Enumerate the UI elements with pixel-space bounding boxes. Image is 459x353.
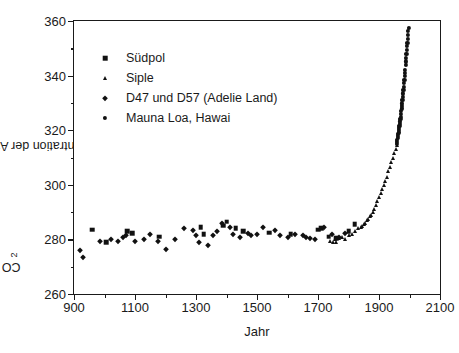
data-point-triangle — [382, 183, 386, 187]
data-point-diamond — [163, 246, 168, 251]
y-tick-label: 360 — [44, 15, 66, 28]
legend-marker-triangle-icon — [96, 69, 114, 87]
data-point-diamond — [190, 227, 195, 232]
y-tick-label: 340 — [44, 69, 66, 82]
data-point-diamond — [108, 237, 113, 242]
x-tick-label: 1300 — [182, 301, 211, 314]
data-point-diamond — [277, 233, 282, 238]
data-point-diamond — [97, 238, 102, 243]
data-point-circle — [404, 56, 408, 60]
data-point-diamond — [215, 229, 220, 234]
data-point-square — [90, 228, 95, 233]
y-axis-title: CO2 - Konzentration der Atmosphäre (ppm) — [2, 20, 20, 295]
data-point-diamond — [197, 240, 202, 245]
data-point-circle — [406, 37, 410, 41]
data-point-triangle — [375, 199, 379, 203]
data-point-triangle — [394, 147, 398, 151]
data-point-square — [198, 225, 203, 230]
data-point-triangle — [377, 195, 381, 199]
y-tick-label: 300 — [44, 178, 66, 191]
legend-swatch-glyph — [103, 116, 107, 120]
y-tick-label: 260 — [44, 288, 66, 301]
data-point-diamond — [312, 237, 317, 242]
data-point-diamond — [148, 231, 153, 236]
data-point-diamond — [78, 248, 83, 253]
data-point-diamond — [116, 238, 121, 243]
y-tick-label: 320 — [44, 124, 66, 137]
data-point-diamond — [261, 225, 266, 230]
y-tick-label: 280 — [44, 233, 66, 246]
data-point-square — [201, 232, 206, 237]
data-point-diamond — [285, 234, 290, 239]
data-point-diamond — [230, 231, 235, 236]
data-point-diamond — [273, 227, 278, 232]
data-point-circle — [404, 59, 408, 63]
x-tick-minor — [288, 294, 289, 298]
data-point-diamond — [255, 231, 260, 236]
legend-item: D47 und D57 (Adelie Land) — [96, 88, 278, 108]
data-point-triangle — [380, 187, 384, 191]
x-axis-title: Jahr — [73, 324, 441, 339]
data-point-circle — [404, 52, 408, 56]
data-point-triangle — [343, 237, 347, 241]
data-point-triangle — [379, 191, 383, 195]
legend-marker-square-icon — [96, 49, 114, 67]
data-point-diamond — [210, 233, 215, 238]
data-point-triangle — [385, 175, 389, 179]
data-point-triangle — [389, 160, 393, 164]
data-point-circle — [402, 78, 406, 82]
legend-swatch-glyph — [103, 76, 107, 80]
chart-legend: SüdpolSipleD47 und D57 (Adelie Land)Maun… — [96, 48, 278, 128]
x-tick-label: 2100 — [426, 301, 455, 314]
x-tick-label: 1500 — [243, 301, 272, 314]
data-point-diamond — [172, 237, 177, 242]
legend-marker-circle-icon — [96, 109, 114, 127]
x-tick-minor — [227, 294, 228, 298]
legend-swatch-glyph — [103, 56, 108, 61]
x-tick-label: 1700 — [304, 301, 333, 314]
x-tick-label: 1900 — [365, 301, 394, 314]
data-point-square — [104, 240, 109, 245]
data-point-diamond — [155, 238, 160, 243]
data-point-circle — [401, 91, 405, 95]
legend-swatch-glyph — [103, 96, 108, 101]
x-tick-minor — [349, 294, 350, 298]
data-point-diamond — [194, 233, 199, 238]
data-point-diamond — [181, 226, 186, 231]
data-point-square — [267, 230, 272, 235]
data-point-circle — [405, 48, 409, 52]
data-point-square — [130, 231, 135, 236]
legend-item: Südpol — [96, 48, 278, 68]
legend-label: D47 und D57 (Adelie Land) — [126, 92, 278, 105]
data-point-triangle — [386, 169, 390, 173]
data-point-triangle — [374, 203, 378, 207]
legend-item: Mauna Loa, Hawai — [96, 108, 278, 128]
data-point-diamond — [133, 238, 138, 243]
data-point-triangle — [392, 151, 396, 155]
data-point-triangle — [391, 156, 395, 160]
legend-label: Südpol — [126, 52, 165, 65]
x-tick-minor — [410, 294, 411, 298]
data-point-diamond — [142, 237, 147, 242]
y-axis-title-prefix: CO — [2, 259, 21, 273]
data-point-diamond — [322, 225, 327, 230]
data-point-diamond — [81, 255, 86, 260]
data-point-circle — [406, 33, 410, 37]
data-point-triangle — [372, 207, 376, 211]
x-tick-minor — [166, 294, 167, 298]
data-point-square — [233, 226, 238, 231]
data-point-triangle — [383, 179, 387, 183]
data-point-diamond — [206, 242, 211, 247]
data-point-diamond — [293, 231, 298, 236]
data-point-square — [224, 219, 229, 224]
data-point-circle — [403, 63, 407, 67]
y-axis-title-subscript: 2 — [9, 252, 19, 257]
data-point-diamond — [248, 233, 253, 238]
legend-item: Siple — [96, 68, 278, 88]
legend-marker-diamond-icon — [96, 89, 114, 107]
x-tick-minor — [105, 294, 106, 298]
chart-page: CO2 - Konzentration der Atmosphäre (ppm)… — [0, 0, 459, 353]
data-point-triangle — [334, 240, 338, 244]
data-point-diamond — [227, 225, 232, 230]
x-tick-label: 900 — [63, 301, 85, 314]
